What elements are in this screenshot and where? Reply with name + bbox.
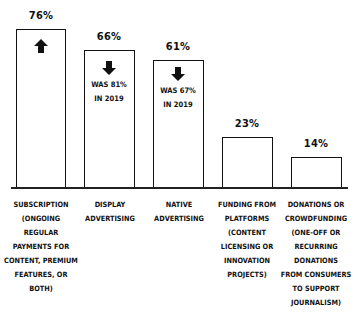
arrow-down-icon (102, 61, 116, 75)
category-label-platforms: FUNDING FROMPLATFORMS(CONTENTLICENSING O… (210, 198, 284, 282)
note-line: WAS 81% (84, 78, 134, 91)
category-label-display: DISPLAYADVERTISING (73, 198, 147, 226)
note-line: WAS 67% (153, 84, 203, 97)
arrow-up-icon (34, 39, 48, 53)
category-label-subscription: SUBSCRIPTION(ONGOING REGULARPAYMENTS FOR… (4, 198, 78, 296)
x-axis-baseline (11, 187, 348, 189)
note-line: IN 2019 (84, 92, 134, 105)
value-label: 61% (143, 40, 213, 53)
note-line: IN 2019 (153, 98, 203, 111)
bar-donations (291, 157, 342, 187)
bar-platform-funding (222, 137, 273, 187)
value-label: 66% (74, 30, 144, 43)
arrow-down-icon (171, 67, 185, 81)
value-label: 14% (281, 137, 351, 150)
category-label-donations: DONATIONS ORCROWDFUNDING(ONE-OFF ORRECUR… (279, 198, 353, 310)
category-label-native: NATIVEADVERTISING (142, 198, 216, 226)
value-label: 76% (6, 9, 76, 22)
value-label: 23% (212, 117, 282, 130)
